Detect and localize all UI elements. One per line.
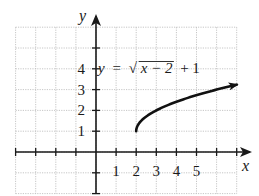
svg-text:y = √: y = √ x − 2 + 1 bbox=[96, 60, 200, 76]
x-tick-label: 2 bbox=[132, 163, 140, 179]
sqrt-symbol: √ bbox=[129, 60, 138, 76]
y-axis-label: y bbox=[77, 7, 87, 25]
x-tick-label: 4 bbox=[173, 163, 181, 179]
function-graph: 123451234 x y y = √ x − 2 + 1 bbox=[0, 0, 259, 196]
equation-radicand: x − 2 bbox=[140, 60, 173, 76]
equation-label: y = √ x − 2 + 1 bbox=[96, 60, 200, 76]
plot-area: 123451234 x y y = √ x − 2 + 1 bbox=[0, 0, 259, 196]
y-tick-label: 4 bbox=[78, 61, 86, 77]
equation-lhs: y bbox=[96, 60, 105, 76]
y-tick-label: 3 bbox=[78, 82, 86, 98]
sqrt-curve bbox=[136, 85, 237, 132]
x-tick-label: 3 bbox=[153, 163, 161, 179]
y-tick-label: 1 bbox=[78, 123, 86, 139]
equation-tail: + 1 bbox=[180, 60, 200, 76]
x-tick-label: 1 bbox=[112, 163, 120, 179]
axis-ticks bbox=[16, 48, 237, 194]
grid-lines bbox=[16, 27, 237, 193]
x-axis-label: x bbox=[241, 157, 249, 174]
x-tick-label: 5 bbox=[193, 163, 201, 179]
equation-equals: = bbox=[112, 60, 120, 76]
y-tick-label: 2 bbox=[78, 102, 86, 118]
